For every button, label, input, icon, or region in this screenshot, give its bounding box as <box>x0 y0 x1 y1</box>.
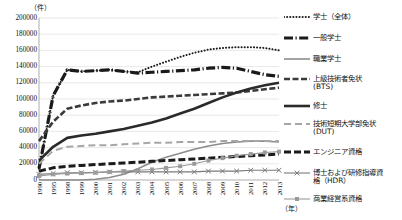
x-axis-tick-labels: 1990199519981999200020012002200320042005… <box>39 181 279 219</box>
x-axis-tick: 2012 <box>261 182 269 195</box>
series-line <box>39 47 279 169</box>
y-axis-tick: 60000 <box>1 128 37 135</box>
chart-container: （件） 020000400006000080000100000120000140… <box>0 0 402 220</box>
x-axis-tick: 2005 <box>163 182 171 195</box>
y-axis-tick: 140000 <box>1 63 37 70</box>
legend-label: 商業経営系資格 <box>313 194 362 203</box>
x-axis-tick: 2000 <box>92 182 100 195</box>
legend-item[interactable]: 技術短期大学部免状 (DUT) <box>284 119 376 137</box>
data-point-marker <box>221 156 225 160</box>
data-point-marker <box>277 150 281 154</box>
y-axis-tick: 120000 <box>1 79 37 86</box>
plot-area <box>39 18 279 180</box>
legend-swatch <box>284 194 310 204</box>
series-path <box>39 88 279 141</box>
legend-label: エンジニア資格 <box>313 147 362 156</box>
data-point-marker <box>93 171 97 175</box>
series-path <box>39 47 279 169</box>
x-axis-tick: 2009 <box>219 182 227 195</box>
data-point-marker <box>192 162 196 166</box>
legend-label: 一般学士 <box>313 33 341 42</box>
data-point-marker <box>235 154 239 158</box>
data-point-marker <box>37 174 41 178</box>
y-axis-tick: 40000 <box>1 144 37 151</box>
x-axis-tick: 1990 <box>36 182 44 195</box>
x-axis-tick: 2008 <box>205 182 213 195</box>
x-axis-tick: 2001 <box>106 182 114 195</box>
y-axis-tick: 20000 <box>1 160 37 167</box>
legend-swatch <box>284 147 310 157</box>
legend-label: 博士および研修指導資 格（HDR） <box>313 168 383 186</box>
x-axis-tick: 2003 <box>134 182 142 195</box>
legend-item[interactable]: エンジニア資格 <box>284 147 362 157</box>
y-axis-tick: 0 <box>1 177 37 184</box>
legend-label: 上級技術者免状 (BTS) <box>313 74 362 92</box>
y-axis-tick-labels: 0200004000060000800001000001200001400001… <box>0 0 37 220</box>
x-axis-tick: 2004 <box>148 182 156 195</box>
y-axis-tick: 160000 <box>1 47 37 54</box>
data-point-marker <box>263 150 267 154</box>
legend-item[interactable]: 上級技術者免状 (BTS) <box>284 74 362 92</box>
data-point-marker <box>122 169 126 173</box>
legend-swatch <box>284 12 310 22</box>
y-axis-tick: 180000 <box>1 31 37 38</box>
x-axis-tick: 2010 <box>233 182 241 195</box>
legend-label: 技術短期大学部免状 (DUT) <box>313 119 376 137</box>
x-axis-tick: 2002 <box>120 182 128 195</box>
x-axis-tick: 2006 <box>177 182 185 195</box>
data-point-marker <box>65 172 69 176</box>
data-point-marker <box>178 164 182 168</box>
y-axis-tick: 80000 <box>1 112 37 119</box>
legend-item[interactable]: 博士および研修指導資 格（HDR） <box>284 168 383 186</box>
legend-label: 職業学士 <box>313 54 341 63</box>
series-line <box>39 88 279 141</box>
series-line <box>39 83 279 161</box>
data-point-marker <box>249 152 253 156</box>
legend-item[interactable]: 修士 <box>284 101 327 111</box>
data-point-marker <box>150 167 154 171</box>
legend-item[interactable]: 商業経営系資格 <box>284 194 362 204</box>
chart-legend: 学士（全体）一般学士職業学士上級技術者免状 (BTS)修士技術短期大学部免状 (… <box>284 12 402 212</box>
x-axis-tick: 1995 <box>50 182 58 195</box>
legend-swatch <box>284 74 310 84</box>
x-axis-tick: 2007 <box>191 182 199 195</box>
legend-swatch <box>284 101 310 111</box>
x-axis-tick: 1998 <box>64 182 72 195</box>
data-point-marker <box>51 172 55 176</box>
data-point-marker <box>79 171 83 175</box>
data-point-marker <box>164 166 168 170</box>
legend-item[interactable]: 学士（全体） <box>284 12 355 22</box>
x-axis-tick: 2013 <box>276 182 284 195</box>
legend-label: 学士（全体） <box>313 12 355 21</box>
legend-swatch <box>284 54 310 64</box>
legend-swatch <box>284 119 310 129</box>
y-axis-tick: 100000 <box>1 96 37 103</box>
x-axis-tick: 1999 <box>78 182 86 195</box>
legend-swatch <box>284 33 310 43</box>
legend-item[interactable]: 一般学士 <box>284 33 341 43</box>
legend-label: 修士 <box>313 101 327 110</box>
data-point-marker <box>108 170 112 174</box>
legend-swatch <box>284 168 310 178</box>
data-point-marker <box>206 159 210 163</box>
y-axis-tick: 200000 <box>1 15 37 22</box>
series-path <box>39 83 279 161</box>
plot-svg <box>39 18 279 180</box>
legend-item[interactable]: 職業学士 <box>284 54 341 64</box>
x-axis-tick: 2011 <box>247 182 255 195</box>
data-point-marker <box>136 168 140 172</box>
